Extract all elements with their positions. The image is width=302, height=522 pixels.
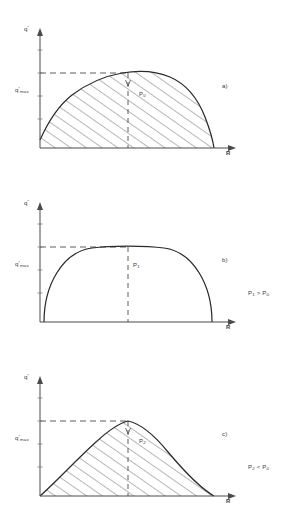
panel-b: q' q'max P1 b) P1 > P0 R <box>0 174 302 348</box>
panel-c-plot <box>0 348 302 522</box>
panel-a-letter: a) <box>222 83 228 89</box>
panel-c-relation: P2 < P0 <box>248 464 269 470</box>
panel-b-relation: P1 > P0 <box>248 290 269 296</box>
panel-b-peak-label: P1 <box>133 262 140 268</box>
panel-b-y-axis-arrow <box>37 202 43 210</box>
panel-c: q' q'max P2 c) P2 < P0 R <box>0 348 302 522</box>
panel-c-x-axis-label: R <box>226 498 231 504</box>
panel-a-y-axis-arrow <box>37 28 43 36</box>
panel-b-y-axis-label: q' <box>24 200 29 206</box>
panel-b-x-axis-label: R <box>226 324 231 330</box>
panel-a-plot <box>0 0 302 174</box>
panel-a-qmax-label: q'max <box>15 87 29 93</box>
panel-c-peak-label: P2 <box>139 438 146 444</box>
panel-a-x-axis-label: R <box>226 150 231 156</box>
panel-a-peak-label: P0 <box>139 91 146 97</box>
panel-c-qmax-label: q'max <box>15 435 29 441</box>
panel-c-letter: c) <box>222 431 227 437</box>
panel-a: q' q'max P0 a) R <box>0 0 302 174</box>
panel-b-qmax-label: q'max <box>15 261 29 267</box>
panel-b-letter: b) <box>222 257 228 263</box>
panel-a-y-axis-label: q' <box>24 26 29 32</box>
panel-c-y-axis-label: q' <box>24 374 29 380</box>
panel-c-y-axis-arrow <box>37 376 43 384</box>
panel-b-plot <box>0 174 302 348</box>
figure-three-panel-distributions: q' q'max P0 a) R <box>0 0 302 522</box>
